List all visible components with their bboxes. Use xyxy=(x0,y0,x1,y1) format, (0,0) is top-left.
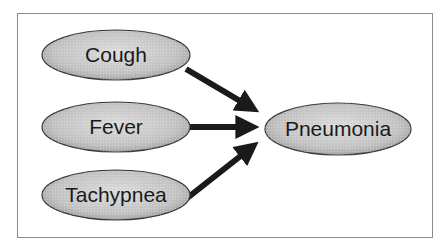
node-fever: Fever xyxy=(42,102,190,152)
node-pneumonia: Pneumonia xyxy=(265,103,411,155)
edge-tachypnea-pneumonia xyxy=(186,147,252,199)
causal-diagram: Cough Fever Tachypnea Pneumonia xyxy=(0,0,448,250)
node-label-cough: Cough xyxy=(85,43,147,66)
edge-cough-pneumonia xyxy=(186,69,252,108)
node-label-fever: Fever xyxy=(89,115,143,138)
node-label-pneumonia: Pneumonia xyxy=(285,117,392,140)
node-cough: Cough xyxy=(42,30,190,80)
node-label-tachypnea: Tachypnea xyxy=(65,183,167,206)
node-tachypnea: Tachypnea xyxy=(42,170,190,220)
